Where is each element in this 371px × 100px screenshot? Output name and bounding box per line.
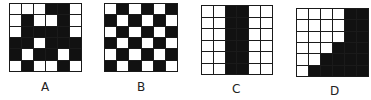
grid-cell	[345, 66, 356, 76]
grid-cell	[333, 43, 344, 53]
grid-cell	[154, 4, 165, 14]
grid-cell	[166, 15, 177, 25]
grid-cell	[345, 20, 356, 30]
grid-cell	[129, 4, 140, 14]
grid-cell	[357, 43, 368, 53]
grid-cell	[22, 27, 33, 37]
grid-cell	[10, 49, 21, 59]
grid-cell	[214, 6, 225, 17]
figure-a-label: A	[41, 80, 49, 94]
grid-cell	[249, 52, 260, 63]
grid-cell	[333, 32, 344, 42]
grid-cell	[34, 49, 45, 59]
grid-cell	[309, 66, 320, 76]
grid-cell	[202, 52, 213, 63]
grid-cell	[202, 18, 213, 29]
grid-cell	[202, 6, 213, 17]
grid-cell	[105, 27, 116, 37]
grid-cell	[142, 38, 153, 48]
grid-cell	[22, 4, 33, 14]
grid-cell	[22, 61, 33, 71]
grid-cell	[117, 27, 128, 37]
grid-cell	[46, 61, 57, 71]
grid-cell	[34, 61, 45, 71]
grid-cell	[261, 18, 272, 29]
figure-b-label: B	[137, 80, 145, 94]
grid-cell	[105, 38, 116, 48]
grid-cell	[105, 4, 116, 14]
grid-cell	[226, 52, 237, 63]
grid-cell	[309, 54, 320, 64]
figure-b-grid	[104, 3, 178, 72]
grid-cell	[321, 20, 332, 30]
grid-cell	[58, 15, 69, 25]
grid-cell	[261, 52, 272, 63]
grid-cell	[202, 64, 213, 75]
grid-cell	[321, 9, 332, 19]
grid-cell	[166, 38, 177, 48]
grid-cell	[58, 4, 69, 14]
grid-cell	[58, 61, 69, 71]
grid-cell	[249, 41, 260, 52]
grid-cell	[166, 49, 177, 59]
grid-cell	[333, 20, 344, 30]
grid-cell	[10, 27, 21, 37]
grid-cell	[321, 54, 332, 64]
grid-cell	[345, 32, 356, 42]
grid-cell	[261, 29, 272, 40]
grid-cell	[142, 49, 153, 59]
grid-cell	[226, 6, 237, 17]
grid-cell	[237, 29, 248, 40]
grid-cell	[309, 20, 320, 30]
grid-cell	[261, 6, 272, 17]
grid-cell	[117, 38, 128, 48]
grid-cell	[154, 61, 165, 71]
grid-cell	[166, 27, 177, 37]
grid-cell	[345, 54, 356, 64]
grid-cell	[10, 61, 21, 71]
grid-cell	[237, 6, 248, 17]
grid-cell	[321, 66, 332, 76]
grid-cell	[34, 4, 45, 14]
grid-cell	[214, 29, 225, 40]
grid-cell	[117, 61, 128, 71]
grid-cell	[142, 15, 153, 25]
grid-cell	[249, 29, 260, 40]
grid-cell	[321, 43, 332, 53]
grid-cell	[142, 27, 153, 37]
figure-c-grid	[201, 5, 273, 75]
grid-cell	[22, 15, 33, 25]
grid-cell	[129, 61, 140, 71]
grid-cell	[129, 38, 140, 48]
grid-cell	[214, 64, 225, 75]
grid-cell	[309, 43, 320, 53]
grid-cell	[117, 4, 128, 14]
grid-cell	[226, 64, 237, 75]
grid-cell	[297, 66, 308, 76]
grid-cell	[345, 9, 356, 19]
grid-cell	[249, 64, 260, 75]
grid-cell	[226, 29, 237, 40]
grid-cell	[154, 38, 165, 48]
grid-cell	[166, 61, 177, 71]
grid-cell	[10, 4, 21, 14]
grid-cell	[237, 18, 248, 29]
grid-cell	[214, 18, 225, 29]
grid-cell	[58, 27, 69, 37]
grid-cell	[22, 38, 33, 48]
grid-cell	[34, 15, 45, 25]
grid-cell	[154, 49, 165, 59]
grid-cell	[117, 15, 128, 25]
figure-c-label: C	[232, 82, 240, 96]
grid-cell	[202, 41, 213, 52]
grid-cell	[46, 49, 57, 59]
grid-cell	[357, 66, 368, 76]
grid-cell	[237, 41, 248, 52]
grid-cell	[226, 41, 237, 52]
grid-cell	[46, 38, 57, 48]
grid-cell	[237, 64, 248, 75]
grid-cell	[333, 9, 344, 19]
grid-cell	[345, 43, 356, 53]
grid-cell	[105, 15, 116, 25]
grid-cell	[297, 43, 308, 53]
